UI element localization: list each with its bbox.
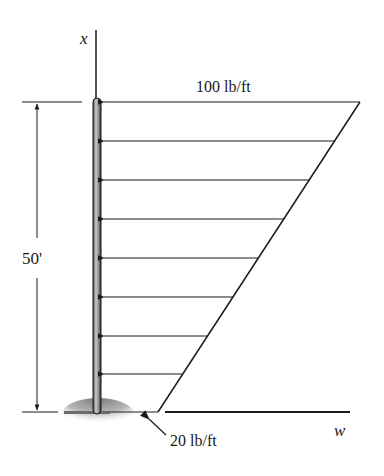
top-load-label: 100 lb/ft xyxy=(196,78,251,95)
pole-member xyxy=(93,98,101,414)
bottom-load-label: 20 lb/ft xyxy=(170,432,217,449)
bottom-load-pointer xyxy=(149,419,166,435)
height-dimension-label: 50' xyxy=(22,249,42,268)
load-arrows xyxy=(104,102,360,374)
distributed-load-diagram: x 50' w 100 lb/ft 20 lb/ft xyxy=(0,0,384,476)
x-axis-label: x xyxy=(79,29,88,48)
ground-surface xyxy=(64,411,110,414)
load-envelope-line xyxy=(158,102,360,412)
w-axis-label: w xyxy=(334,421,346,440)
